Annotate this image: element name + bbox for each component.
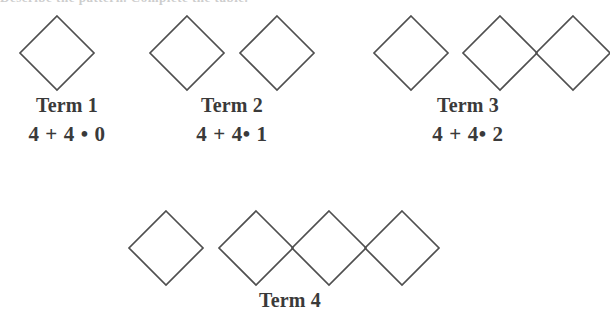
term-2-formula: 4 + 4• 1	[196, 122, 267, 147]
diamond	[219, 211, 293, 285]
diamond	[240, 16, 314, 90]
diamond	[536, 16, 610, 90]
diamond	[374, 16, 448, 90]
term-1-label: Term 1	[36, 94, 98, 117]
figure-canvas: Describe the pattern. Complete the table…	[0, 0, 610, 325]
diamond	[150, 16, 224, 90]
diamond	[463, 16, 537, 90]
diamond	[20, 16, 94, 90]
term-2-label: Term 2	[201, 94, 263, 117]
diamond	[129, 211, 203, 285]
diamond	[292, 211, 366, 285]
term-1-formula: 4 + 4 • 0	[28, 122, 105, 147]
row-top-diamonds	[20, 16, 610, 90]
term-3-label: Term 3	[437, 94, 499, 117]
term-3-formula: 4 + 4• 2	[432, 122, 503, 147]
term-4-label: Term 4	[259, 289, 321, 312]
row-bottom-diamonds	[129, 211, 439, 285]
diamond-pattern-svg	[0, 0, 610, 325]
diamond	[365, 211, 439, 285]
